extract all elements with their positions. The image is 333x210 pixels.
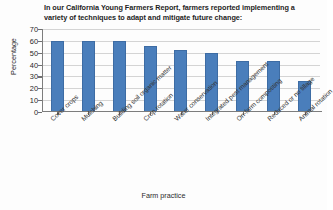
y-axis-tick-mark	[38, 29, 42, 30]
y-axis-tick-labels: 010203040506070	[10, 29, 38, 112]
y-axis-tick-mark	[38, 65, 42, 66]
x-axis-title: Farm practice	[0, 191, 327, 200]
bar[interactable]	[174, 50, 187, 112]
bar[interactable]	[51, 41, 64, 112]
y-axis-tick-mark	[38, 41, 42, 42]
y-axis-tick-label: 0	[16, 108, 38, 117]
y-axis-tick-label: 50	[16, 48, 38, 57]
y-axis-tick-label: 20	[16, 84, 38, 93]
y-axis-tick-label: 10	[16, 96, 38, 105]
y-axis-tick-label: 70	[16, 25, 38, 34]
plot-area	[42, 29, 320, 112]
bar[interactable]	[113, 41, 126, 112]
chart-title: In our California Young Farmers Report, …	[44, 3, 316, 23]
y-axis-tick-label: 30	[16, 72, 38, 81]
y-axis-line	[42, 29, 43, 112]
y-axis-tick-mark	[38, 112, 42, 113]
bar[interactable]	[82, 41, 95, 112]
y-axis-tick-label: 40	[16, 60, 38, 69]
y-axis-tick-mark	[38, 53, 42, 54]
y-axis-tick-mark	[38, 100, 42, 101]
y-axis-tick-label: 60	[16, 36, 38, 45]
y-axis-tick-mark	[38, 88, 42, 89]
y-axis-tick-mark	[38, 76, 42, 77]
